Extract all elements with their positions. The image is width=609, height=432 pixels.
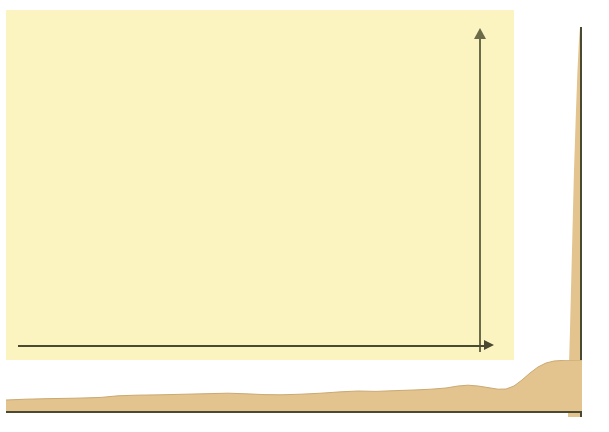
- history-x-axis-line: [6, 411, 582, 413]
- y-axis-arrow: [474, 28, 486, 39]
- history-y-axis-line: [580, 27, 582, 417]
- projection-curves: [6, 10, 514, 360]
- y-axis-line: [479, 37, 481, 352]
- projection-chart-panel: [6, 10, 514, 360]
- x-axis-line: [18, 345, 486, 347]
- history-spike-area: [520, 0, 582, 420]
- history-area-chart: [6, 360, 582, 412]
- x-axis-arrow: [484, 340, 494, 350]
